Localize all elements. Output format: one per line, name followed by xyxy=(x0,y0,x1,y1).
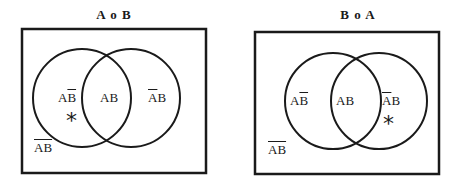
label-base: B xyxy=(391,93,400,108)
label-overlined: AB xyxy=(34,140,52,155)
label-overlined: B xyxy=(299,93,308,108)
label-overlined: A xyxy=(148,90,157,105)
label-overlined: AB xyxy=(268,142,286,157)
region-label-a-not-b-left: AB xyxy=(58,91,76,105)
region-label-ab-left: AB xyxy=(100,91,118,105)
label-overlined: B xyxy=(67,90,76,105)
region-label-not-a-b-left: AB xyxy=(148,91,166,105)
region-label-a-not-b-right: AB xyxy=(290,94,308,108)
region-label-neither-right: AB xyxy=(268,143,286,157)
region-label-not-a-b-right: AB xyxy=(382,94,400,108)
region-label-neither-left: AB xyxy=(34,141,52,155)
diagram-title-left: A o B xyxy=(74,7,154,23)
label-base: A xyxy=(58,90,67,105)
label-overlined: A xyxy=(382,93,391,108)
label-base: B xyxy=(157,90,166,105)
asterisk-marker-left: * xyxy=(66,110,77,132)
asterisk-marker-right: * xyxy=(383,113,394,135)
label-base: A xyxy=(290,93,299,108)
region-label-ab-right: AB xyxy=(336,94,354,108)
diagram-title-right: B o A xyxy=(318,7,398,23)
